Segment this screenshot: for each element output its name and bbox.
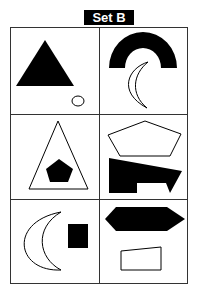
cell-r1-c2 — [109, 32, 177, 108]
set-label: Set B — [84, 10, 134, 25]
cell-r2-c2 — [108, 121, 182, 193]
cell-r3-c1 — [24, 212, 88, 270]
filled-pentagon-shape — [46, 159, 73, 182]
outline-crescent-shape — [24, 212, 61, 270]
filled-irregular-polygon-shape — [109, 158, 182, 193]
outline-pentagon-shape — [108, 121, 181, 156]
cell-r3-c2 — [105, 207, 185, 270]
filled-arch-shape — [109, 32, 177, 68]
puzzle-grid — [0, 0, 198, 293]
outline-small-circle-shape — [72, 96, 84, 106]
cell-r2-c1 — [29, 121, 88, 189]
outline-crescent-shape — [128, 62, 148, 108]
filled-rectangle-shape — [68, 224, 88, 248]
cell-r1-c1 — [16, 40, 84, 106]
filled-triangle-shape — [16, 40, 74, 86]
filled-hexagon-shape — [105, 207, 185, 231]
outline-trapezoid-shape — [121, 247, 161, 270]
